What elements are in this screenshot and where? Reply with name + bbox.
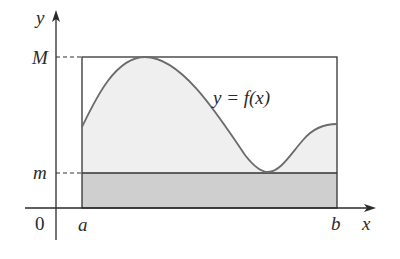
integral-bounds-diagram: y x 0 M m a b y = f(x) bbox=[0, 0, 400, 259]
b-label: b bbox=[331, 213, 341, 234]
origin-label: 0 bbox=[35, 213, 45, 234]
function-label: y = f(x) bbox=[211, 87, 270, 109]
y-axis-label: y bbox=[34, 7, 45, 28]
min-label: m bbox=[33, 162, 47, 183]
max-label: M bbox=[31, 47, 49, 68]
x-axis-label: x bbox=[361, 213, 371, 234]
a-label: a bbox=[78, 214, 88, 235]
area-under-curve bbox=[82, 57, 337, 173]
lower-bound-rectangle bbox=[82, 173, 337, 208]
